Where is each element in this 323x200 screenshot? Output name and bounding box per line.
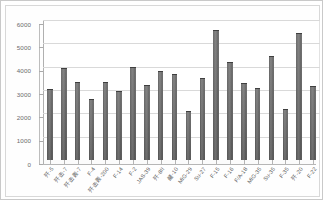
bar-slot bbox=[116, 20, 122, 160]
x-axis-tick bbox=[50, 160, 51, 164]
bar-slot bbox=[200, 20, 206, 160]
x-axis-tick bbox=[244, 160, 245, 164]
plot-floor bbox=[39, 160, 316, 165]
bar[interactable] bbox=[103, 82, 109, 160]
x-axis-tick bbox=[216, 160, 217, 164]
bar-slot bbox=[61, 20, 67, 160]
y-axis-tick bbox=[39, 47, 43, 48]
bar-slot bbox=[283, 20, 289, 160]
bar-slot bbox=[103, 20, 109, 160]
x-axis-tick bbox=[202, 160, 203, 164]
x-axis-tick bbox=[230, 160, 231, 164]
x-axis-tick bbox=[175, 160, 176, 164]
x-axis-tick bbox=[272, 160, 273, 164]
y-axis-tick-label: 0 bbox=[27, 161, 31, 168]
x-axis-tick bbox=[313, 160, 314, 164]
plot-area bbox=[39, 20, 320, 164]
y-axis-tick bbox=[39, 71, 43, 72]
bar-slot bbox=[158, 20, 164, 160]
y-axis-tick-label: 4000 bbox=[17, 67, 31, 74]
y-axis-labels: 0100020003000400050006000 bbox=[6, 20, 35, 164]
bar-slot bbox=[227, 20, 233, 160]
bar-slot bbox=[144, 20, 150, 160]
bar[interactable] bbox=[172, 74, 178, 160]
bar[interactable] bbox=[186, 111, 192, 160]
bar-slot bbox=[213, 20, 219, 160]
x-axis-tick bbox=[299, 160, 300, 164]
bar-slot bbox=[310, 20, 316, 160]
y-axis-tick-label: 6000 bbox=[17, 21, 31, 28]
bar-slot bbox=[241, 20, 247, 160]
y-axis-tick bbox=[39, 94, 43, 95]
bar[interactable] bbox=[130, 67, 136, 160]
x-axis-tick bbox=[161, 160, 162, 164]
x-axis-category-label: 歼-5 bbox=[43, 166, 54, 178]
y-axis-tick bbox=[39, 164, 43, 165]
bar-slot bbox=[255, 20, 261, 160]
chart-area: 0100020003000400050006000 歼-5歼击-7歼击轰-7F-… bbox=[5, 5, 320, 197]
bar-slot bbox=[130, 20, 136, 160]
x-axis-tick bbox=[78, 160, 79, 164]
bar[interactable] bbox=[116, 91, 122, 160]
bar[interactable] bbox=[255, 88, 261, 160]
y-axis-tick-label: 1000 bbox=[17, 137, 31, 144]
bar[interactable] bbox=[47, 89, 53, 160]
bar[interactable] bbox=[200, 78, 206, 160]
bar[interactable] bbox=[89, 99, 95, 160]
y-axis-tick bbox=[39, 141, 43, 142]
bar-series bbox=[43, 20, 320, 160]
bar[interactable] bbox=[144, 85, 150, 160]
bar[interactable] bbox=[283, 109, 289, 160]
bar[interactable] bbox=[61, 68, 67, 160]
y-axis-tick-label: 5000 bbox=[17, 44, 31, 51]
y-axis-tick bbox=[39, 24, 43, 25]
x-axis-tick bbox=[285, 160, 286, 164]
bar[interactable] bbox=[75, 82, 81, 160]
bar[interactable] bbox=[310, 86, 316, 160]
bar-slot bbox=[269, 20, 275, 160]
bar[interactable] bbox=[241, 83, 247, 160]
x-axis-tick bbox=[188, 160, 189, 164]
x-axis-tick bbox=[105, 160, 106, 164]
bar[interactable] bbox=[213, 30, 219, 160]
x-axis-labels: 歼-5歼击-7歼击轰-7F-4歼击轰-200F-14F-2JAS-39歼-8II… bbox=[39, 166, 320, 200]
bar[interactable] bbox=[227, 62, 233, 160]
chart-frame: 0100020003000400050006000 歼-5歼击-7歼击轰-7F-… bbox=[0, 0, 323, 200]
y-axis-tick-label: 2000 bbox=[17, 114, 31, 121]
bar-slot bbox=[75, 20, 81, 160]
y-axis-tick-label: 3000 bbox=[17, 91, 31, 98]
bar-slot bbox=[89, 20, 95, 160]
bar[interactable] bbox=[158, 71, 164, 160]
bar-slot bbox=[172, 20, 178, 160]
x-axis-tick bbox=[91, 160, 92, 164]
y-axis-tick bbox=[39, 117, 43, 118]
bar[interactable] bbox=[296, 33, 302, 160]
bar-slot bbox=[47, 20, 53, 160]
bar-slot bbox=[296, 20, 302, 160]
bar-slot bbox=[186, 20, 192, 160]
x-axis-tick bbox=[64, 160, 65, 164]
x-axis-tick bbox=[147, 160, 148, 164]
bar[interactable] bbox=[269, 56, 275, 160]
x-axis-tick bbox=[258, 160, 259, 164]
x-axis-tick bbox=[119, 160, 120, 164]
x-axis-tick bbox=[133, 160, 134, 164]
